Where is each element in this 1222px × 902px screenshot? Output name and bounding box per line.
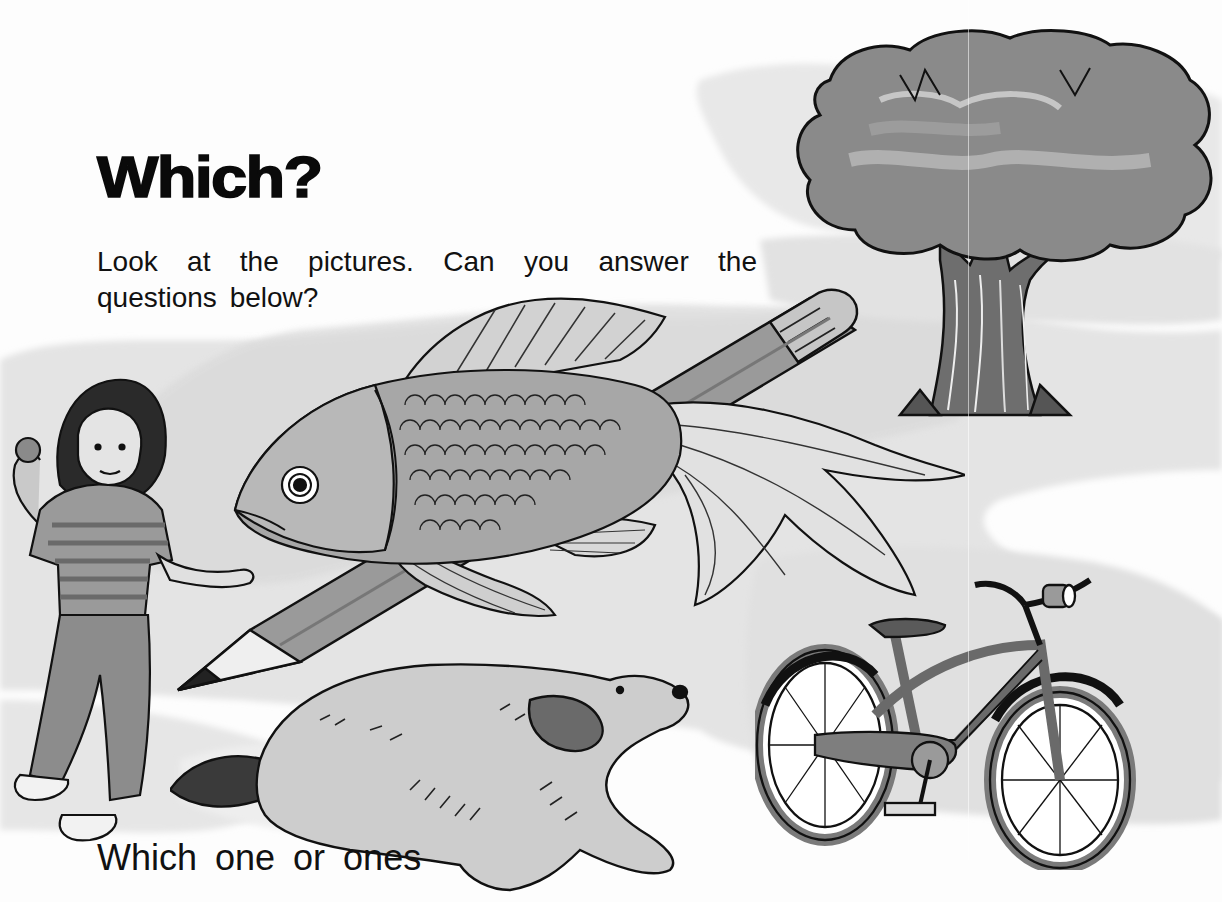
page-fold-line bbox=[968, 0, 969, 860]
ball bbox=[16, 438, 40, 462]
intro-line-1: Look at the pictures. Can you answer the bbox=[97, 244, 757, 280]
bicycle-illustration bbox=[755, 545, 1145, 870]
bicycle-seat bbox=[870, 619, 945, 637]
girl-jeans bbox=[30, 615, 150, 800]
intro-paragraph: Look at the pictures. Can you answer the… bbox=[97, 244, 757, 316]
page-title: Which? bbox=[97, 148, 321, 206]
dog-nose bbox=[673, 686, 687, 698]
question-text: Which one or ones bbox=[97, 836, 421, 880]
bicycle-handlebar bbox=[975, 584, 1025, 605]
bicycle-headlamp bbox=[1043, 585, 1075, 607]
tree-canopy bbox=[798, 31, 1211, 261]
fish-eye bbox=[282, 467, 318, 503]
girl-shoe-left bbox=[15, 775, 68, 800]
bicycle-pedal bbox=[885, 803, 935, 815]
book-page: Which? Look at the pictures. Can you ans… bbox=[0, 0, 1222, 902]
intro-line-2: questions below? bbox=[97, 280, 757, 316]
